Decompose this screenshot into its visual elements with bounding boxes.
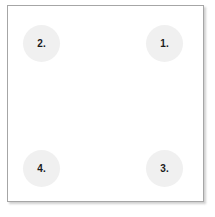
marker-label: 3. xyxy=(160,164,169,174)
framed-panel: 1. 2. 3. 4. xyxy=(7,5,204,202)
marker-label: 4. xyxy=(37,164,46,174)
numbered-marker-4[interactable]: 4. xyxy=(23,150,60,187)
panel-canvas: 1. 2. 3. 4. xyxy=(8,6,203,201)
numbered-marker-3[interactable]: 3. xyxy=(146,150,183,187)
screenshot-root: 1. 2. 3. 4. xyxy=(0,0,215,217)
numbered-marker-2[interactable]: 2. xyxy=(23,25,60,62)
marker-label: 2. xyxy=(37,39,46,49)
numbered-marker-1[interactable]: 1. xyxy=(146,25,183,62)
marker-label: 1. xyxy=(160,39,169,49)
